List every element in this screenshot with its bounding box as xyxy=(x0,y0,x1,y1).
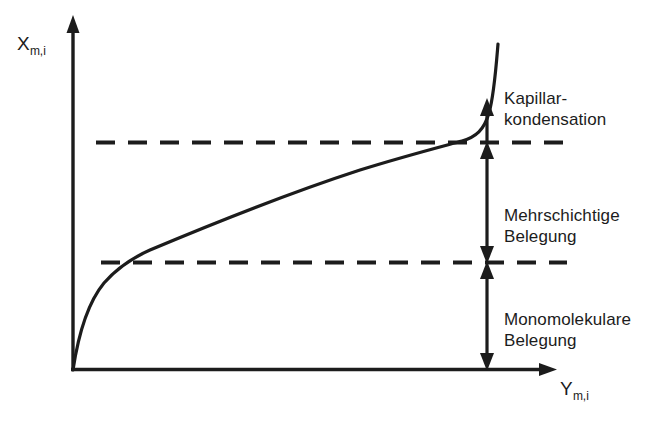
y-axis-subscript: m,i xyxy=(30,44,46,58)
x-axis-arrow-icon xyxy=(539,363,557,376)
isotherm-curve xyxy=(73,44,498,370)
monolayer-coverage-label: Monomolekulare Belegung xyxy=(504,309,631,351)
y-axis-label: Xm,i xyxy=(17,33,46,58)
y-axis xyxy=(67,15,80,371)
x-axis xyxy=(71,363,557,376)
multilayer-coverage-label: Mehrschichtige Belegung xyxy=(504,205,620,247)
x-axis-subscript: m,i xyxy=(573,389,589,403)
x-axis-label: Ym,i xyxy=(560,378,589,403)
multilayer-coverage-arrow xyxy=(480,141,494,264)
sorption-isotherm-diagram: Xm,i Ym,i Kapillar- kondensation Mehrsch… xyxy=(0,0,659,421)
capillary-condensation-label: Kapillar- kondensation xyxy=(504,88,606,130)
y-axis-arrow-icon xyxy=(67,15,80,33)
y-axis-symbol: X xyxy=(17,33,30,54)
x-axis-symbol: Y xyxy=(560,378,573,399)
monolayer-coverage-arrow xyxy=(480,261,494,371)
